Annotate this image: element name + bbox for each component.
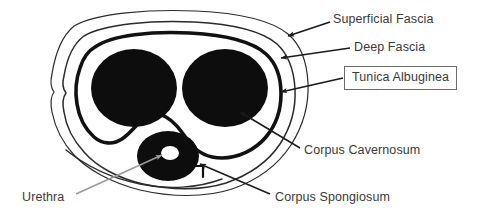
anatomy-figure <box>0 0 488 217</box>
label-corpus-spongiosum: Corpus Spongiosum <box>275 191 390 204</box>
label-superficial-fascia: Superficial Fascia <box>333 13 433 26</box>
pointer-superficial-fascia <box>288 22 330 36</box>
label-corpus-cavernosum: Corpus Cavernosum <box>304 144 420 157</box>
corpus-cavernosum-left <box>91 49 177 127</box>
diagram-canvas: Superficial Fascia Deep Fascia Tunica Al… <box>0 0 488 217</box>
pointer-tunica-albuginea <box>281 78 343 92</box>
label-tunica-albuginea: Tunica Albuginea <box>344 66 457 90</box>
pointer-corpus-cavernosum <box>240 112 300 148</box>
label-deep-fascia: Deep Fascia <box>354 41 425 54</box>
urethra-lumen <box>161 146 179 160</box>
pointer-corpus-spongiosum <box>200 164 270 194</box>
pointer-deep-fascia <box>281 48 350 58</box>
corpus-cavernosum-right <box>182 49 268 127</box>
label-urethra: Urethra <box>22 191 64 204</box>
